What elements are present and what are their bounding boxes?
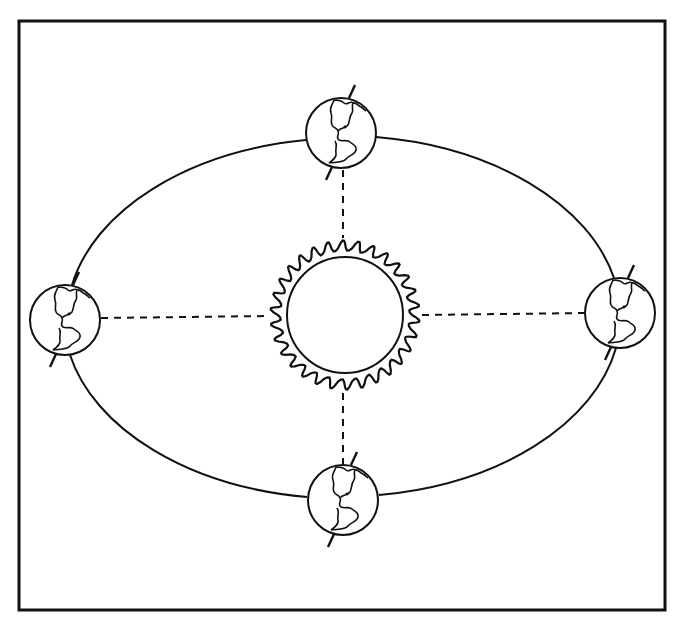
earth-right (585, 265, 655, 360)
earth-globe-icon (306, 85, 376, 180)
earth-bottom (308, 452, 378, 547)
earth-top (306, 85, 376, 180)
earth-globe-icon (308, 452, 378, 547)
earth-left (30, 272, 100, 367)
earth-globe-icon (585, 265, 655, 360)
sun-earth-lines (101, 170, 585, 464)
orbit-path (70, 137, 616, 497)
sun-icon (271, 241, 420, 390)
orbit-diagram (0, 0, 678, 624)
earth-globe-icon (30, 272, 100, 367)
